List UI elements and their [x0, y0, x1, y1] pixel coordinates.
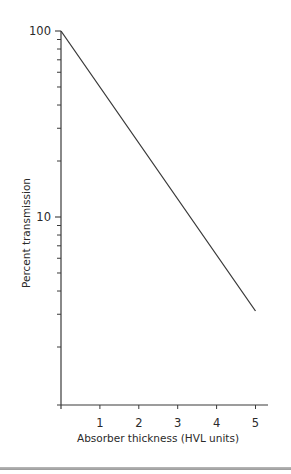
bottom-separator	[0, 467, 291, 470]
x-tick-label: 3	[174, 416, 181, 430]
x-ticks: 12345	[96, 405, 259, 430]
x-tick-label: 2	[135, 416, 142, 430]
y-tick-label: 10	[36, 210, 51, 224]
y-tick-label: 100	[29, 24, 51, 38]
x-axis-title: Absorber thickness (HVL units)	[77, 432, 239, 444]
chart: 10010 12345 Absorber thickness (HVL unit…	[0, 0, 291, 474]
x-tick-label: 4	[213, 416, 220, 430]
x-tick-label: 5	[252, 416, 259, 430]
x-tick-label: 1	[96, 416, 103, 430]
y-major-ticks: 10010	[29, 24, 61, 224]
series-layer	[61, 31, 256, 311]
y-axis-title: Percent transmission	[20, 178, 32, 288]
series-line	[61, 31, 256, 311]
